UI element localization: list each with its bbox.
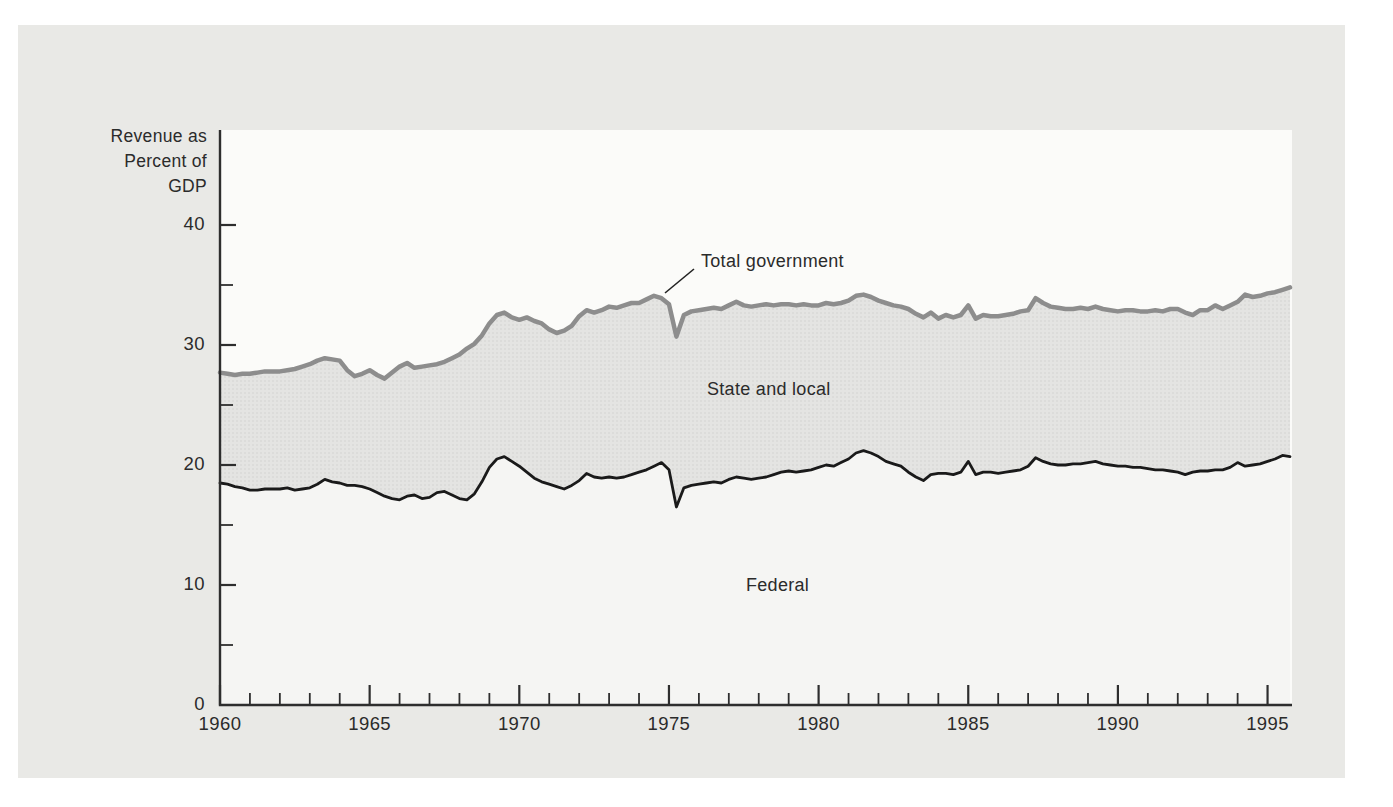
x-tick-label-1965: 1965 xyxy=(335,713,405,735)
y-axis-title: Revenue as Percent of GDP xyxy=(75,124,207,199)
x-tick-label-1975: 1975 xyxy=(634,713,704,735)
x-tick-label-1995: 1995 xyxy=(1233,713,1303,735)
x-tick-label-1970: 1970 xyxy=(484,713,554,735)
state-and-local-label: State and local xyxy=(707,379,831,400)
total-government-label: Total government xyxy=(701,251,844,272)
y-tick-label-40: 40 xyxy=(117,213,205,235)
x-tick-label-1980: 1980 xyxy=(784,713,854,735)
x-tick-label-1990: 1990 xyxy=(1083,713,1153,735)
y-tick-label-0: 0 xyxy=(117,693,205,715)
federal-label: Federal xyxy=(746,575,809,596)
y-axis-title-line3: GDP xyxy=(75,174,207,199)
y-axis-title-line2: Percent of xyxy=(75,149,207,174)
y-tick-label-30: 30 xyxy=(117,333,205,355)
y-tick-label-10: 10 xyxy=(117,573,205,595)
x-tick-label-1985: 1985 xyxy=(933,713,1003,735)
revenue-gdp-chart xyxy=(0,0,1393,807)
x-tick-label-1960: 1960 xyxy=(185,713,255,735)
y-axis-title-line1: Revenue as xyxy=(75,124,207,149)
y-tick-label-20: 20 xyxy=(117,453,205,475)
